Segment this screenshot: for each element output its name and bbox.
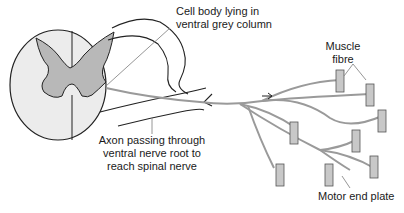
muscle-fibres: [276, 70, 386, 186]
cell-body-label-line1: Cell body lying in: [176, 5, 272, 18]
cell-body-label: Cell body lying in ventral grey column: [176, 5, 272, 31]
axon-label: Axon passing through ventral nerve root …: [96, 134, 208, 173]
axon-label-line2: ventral nerve root to: [96, 147, 208, 160]
muscle-fibre-label-line2: fibre: [318, 53, 368, 66]
diagram-canvas: Cell body lying in ventral grey column A…: [0, 0, 404, 213]
muscle-fibre-label-line1: Muscle: [318, 40, 368, 53]
axon-label-line3: reach spinal nerve: [96, 160, 208, 173]
muscle-fibre-label: Muscle fibre: [318, 40, 368, 66]
motor-neuron-diagram: [0, 0, 404, 213]
axon-label-line1: Axon passing through: [96, 134, 208, 147]
spinal-cord-cross-section: [10, 30, 114, 140]
motor-end-plate-label: Motor end plate: [318, 190, 394, 203]
cell-body-label-line2: ventral grey column: [176, 18, 272, 31]
